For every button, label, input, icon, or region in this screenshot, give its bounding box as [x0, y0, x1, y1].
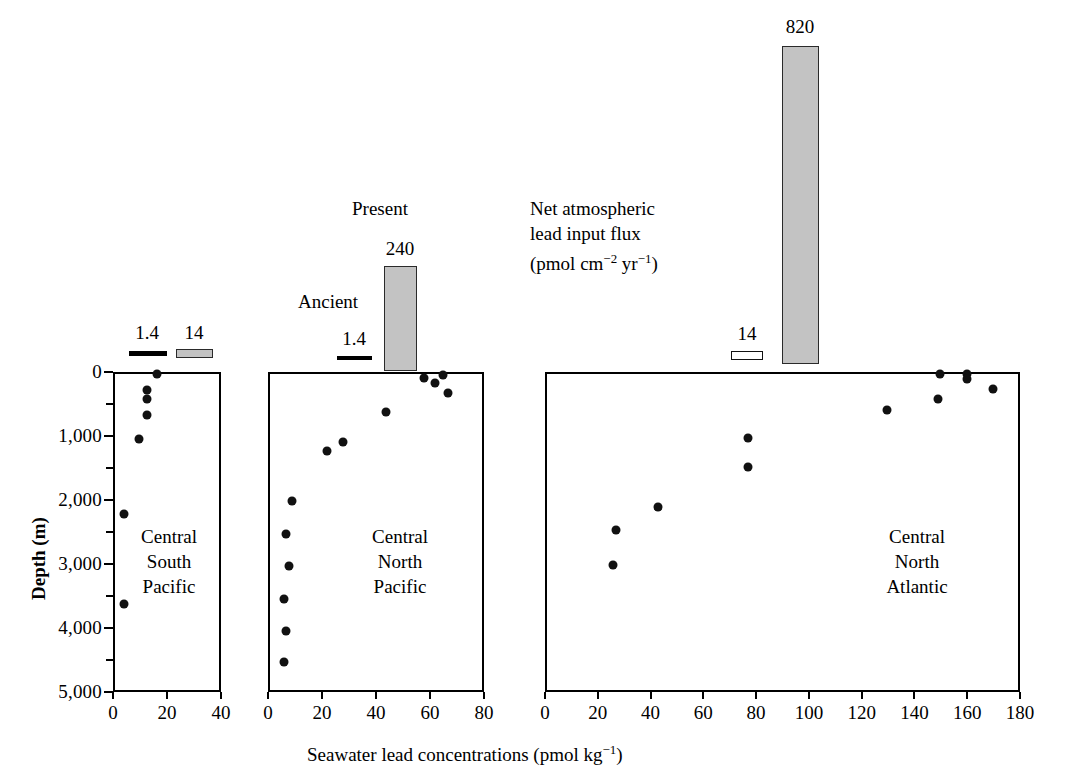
x-tick-label: 40 [641, 702, 660, 724]
flux-note-units-tail: ) [651, 253, 657, 274]
panel-central-north-pacific: Central North Pacific [268, 372, 484, 692]
y-tick-label: 0 [38, 361, 102, 383]
y-tick-major [104, 627, 113, 629]
data-point [419, 373, 428, 382]
data-point [120, 509, 129, 518]
panel-2-flux-bar-240 [384, 266, 417, 371]
data-point [279, 595, 288, 604]
flux-note-line-2: lead input flux [530, 221, 658, 246]
x-tick-label: 0 [263, 702, 273, 724]
x-tick-label: 40 [367, 702, 386, 724]
flux-note-units-mid: yr [617, 253, 638, 274]
data-point [152, 370, 161, 379]
x-tick [166, 692, 168, 699]
x-tick [429, 692, 431, 699]
x-tick-label: 0 [108, 702, 118, 724]
flux-note-units-main: (pmol cm [530, 253, 603, 274]
x-tick-label: 20 [313, 702, 332, 724]
x-tick [913, 692, 915, 699]
x-axis-title-tail: ) [616, 744, 622, 765]
x-tick-label: 140 [900, 702, 929, 724]
x-tick [544, 692, 546, 699]
y-tick-minor [106, 403, 113, 405]
y-tick-minor [106, 467, 113, 469]
panel-3-region-line-3: Atlantic [847, 574, 987, 599]
panel-3-flux-bar-820 [782, 46, 819, 364]
panel-1-region-label: Central South Pacific [115, 524, 223, 599]
y-tick-major [104, 371, 113, 373]
y-tick-label: 4,000 [38, 617, 102, 639]
x-axis-title-main: Seawater lead concentrations (pmol kg [307, 744, 602, 765]
y-tick-minor [106, 531, 113, 533]
data-point [608, 560, 617, 569]
data-point [936, 370, 945, 379]
data-point [142, 394, 151, 403]
y-tick-label: 3,000 [38, 553, 102, 575]
x-tick-label: 100 [795, 702, 824, 724]
panel-2-region-line-3: Pacific [330, 574, 470, 599]
panel-3-flux-label-14: 14 [738, 323, 757, 345]
x-tick [1019, 692, 1021, 699]
panel-1-flux-label-14: 14 [185, 322, 204, 344]
panel-3-region-line-2: North [847, 549, 987, 574]
x-axis-title: Seawater lead concentrations (pmol kg−1) [307, 742, 623, 766]
data-point [438, 370, 447, 379]
x-tick [112, 692, 114, 699]
x-tick [861, 692, 863, 699]
data-point [444, 389, 453, 398]
legend-label-present: Present [352, 198, 408, 220]
y-tick-label: 2,000 [38, 489, 102, 511]
x-tick-label: 80 [747, 702, 766, 724]
x-tick [267, 692, 269, 699]
panel-3-flux-label-820: 820 [786, 16, 815, 38]
x-tick [483, 692, 485, 699]
panel-2-flux-label-1_4: 1.4 [342, 328, 366, 350]
data-point [322, 446, 331, 455]
panel-2-flux-label-240: 240 [386, 238, 415, 260]
data-point [142, 410, 151, 419]
x-tick-label: 20 [588, 702, 607, 724]
data-point [611, 525, 620, 534]
panel-central-south-pacific: Central South Pacific [113, 372, 221, 692]
panel-2-region-label: Central North Pacific [330, 524, 470, 599]
data-point [287, 496, 296, 505]
data-point [988, 385, 997, 394]
data-point [338, 437, 347, 446]
x-tick-label: 60 [694, 702, 713, 724]
panel-3-region-label: Central North Atlantic [847, 524, 987, 599]
panel-2-region-line-2: North [330, 549, 470, 574]
y-tick-label: 5,000 [38, 681, 102, 703]
panel-1-flux-bar-1_4 [129, 351, 167, 356]
x-tick [321, 692, 323, 699]
panel-1-region-line-3: Pacific [115, 574, 223, 599]
data-point [279, 658, 288, 667]
y-tick-minor [106, 659, 113, 661]
data-point [653, 503, 662, 512]
panel-1-flux-label-1_4: 1.4 [135, 322, 159, 344]
data-point [284, 562, 293, 571]
flux-note-units-sup-1: −2 [603, 251, 617, 266]
data-point [883, 405, 892, 414]
x-tick [755, 692, 757, 699]
data-point [743, 462, 752, 471]
data-point [142, 386, 151, 395]
panel-1-flux-bar-14 [176, 349, 213, 358]
x-tick [597, 692, 599, 699]
data-point [282, 627, 291, 636]
panel-3-region-line-1: Central [847, 524, 987, 549]
panel-central-north-atlantic: Central North Atlantic [545, 372, 1020, 692]
legend-label-ancient: Ancient [298, 291, 358, 313]
panel-2-region-line-1: Central [330, 524, 470, 549]
x-tick-label: 0 [540, 702, 550, 724]
x-tick [966, 692, 968, 699]
x-tick-label: 160 [953, 702, 982, 724]
data-point [282, 530, 291, 539]
x-tick-label: 60 [421, 702, 440, 724]
flux-note-units-sup-2: −1 [638, 251, 652, 266]
x-tick-label: 120 [847, 702, 876, 724]
panel-3-flux-bar-14 [731, 351, 763, 360]
data-point [135, 435, 144, 444]
panel-1-region-line-2: South [115, 549, 223, 574]
flux-note: Net atmospheric lead input flux (pmol cm… [530, 196, 658, 276]
x-tick [220, 692, 222, 699]
